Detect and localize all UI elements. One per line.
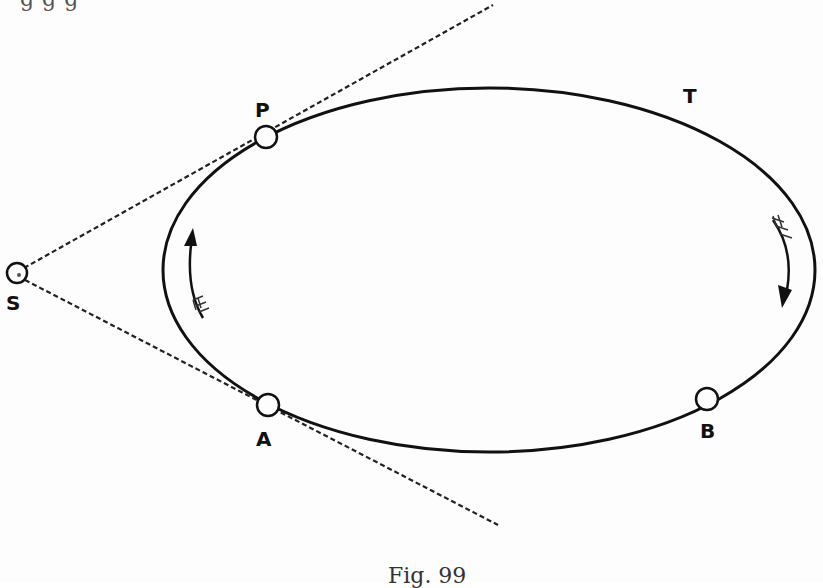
label-s: S	[6, 291, 20, 315]
point-p-marker	[255, 126, 277, 148]
point-a-marker	[257, 394, 279, 416]
label-t: T	[683, 84, 697, 108]
arrow-down-icon	[772, 215, 792, 308]
label-b: B	[700, 419, 715, 443]
arrow-up-icon	[184, 228, 209, 318]
point-s-marker	[7, 263, 27, 283]
label-a: A	[256, 427, 272, 451]
figure-caption: Fig. 99	[388, 563, 466, 588]
point-b-marker	[696, 388, 718, 410]
label-p: P	[255, 98, 270, 122]
